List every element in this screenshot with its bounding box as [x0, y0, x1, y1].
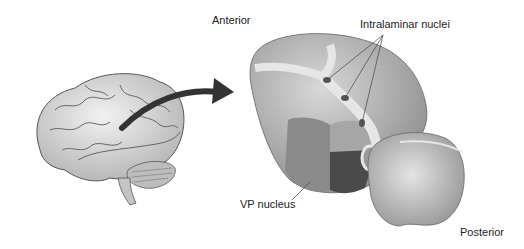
- posterior-label: Posterior: [460, 226, 504, 238]
- intralaminar-nuclei-label: Intralaminar nuclei: [360, 18, 450, 30]
- diagram-canvas: [0, 0, 524, 249]
- vp-nucleus-label: VP nucleus: [240, 198, 295, 210]
- brain-illustration: [37, 74, 184, 205]
- anterior-label: Anterior: [212, 14, 251, 26]
